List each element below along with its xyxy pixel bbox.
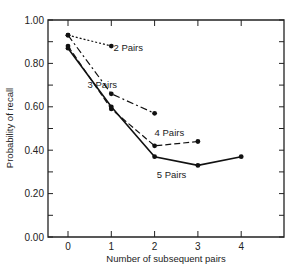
line-chart: 0.000.200.400.600.801.0001234 2 Pairs3 P… [0, 0, 297, 272]
x-tick-label: 0 [65, 241, 71, 252]
series-label: 5 Pairs [157, 169, 187, 180]
y-axis-label: Probability of recall [4, 88, 15, 168]
y-tick-label: 0.20 [25, 188, 45, 199]
data-point [196, 139, 201, 144]
y-tick-label: 1.00 [25, 15, 45, 26]
data-point [66, 33, 71, 38]
data-point [196, 163, 201, 168]
data-point [109, 91, 114, 96]
x-tick-label: 1 [109, 241, 115, 252]
series-2-pairs: 2 Pairs [66, 33, 144, 54]
data-point [152, 143, 157, 148]
x-axis-label: Number of subsequent pairs [106, 253, 226, 264]
series-label: 2 Pairs [113, 42, 143, 53]
x-tick-label: 4 [238, 241, 244, 252]
chart-series: 2 Pairs3 Pairs4 Pairs5 Pairs [66, 33, 244, 181]
data-point [239, 154, 244, 159]
data-point [109, 104, 114, 109]
series-label: 4 Pairs [155, 127, 185, 138]
y-tick-label: 0.80 [25, 58, 45, 69]
y-tick-label: 0.40 [25, 145, 45, 156]
y-tick-label: 0.00 [25, 232, 45, 243]
x-tick-label: 2 [152, 241, 158, 252]
x-tick-label: 3 [195, 241, 201, 252]
data-point [152, 111, 157, 116]
data-point [66, 46, 71, 51]
data-point [152, 154, 157, 159]
y-tick-label: 0.60 [25, 101, 45, 112]
